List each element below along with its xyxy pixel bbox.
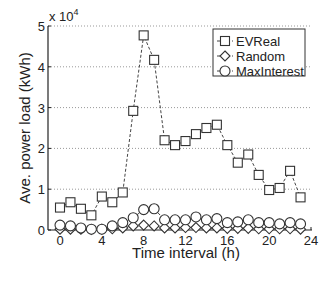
x-tick-label: 4	[98, 233, 105, 248]
square-marker	[129, 106, 138, 115]
circle-marker	[139, 205, 149, 215]
square-marker	[171, 141, 180, 150]
diamond-marker	[139, 220, 149, 230]
circle-marker	[149, 204, 159, 214]
circle-marker	[118, 218, 128, 228]
y-axis-label: Ave. power load (kWh)	[16, 52, 33, 203]
square-marker	[296, 193, 305, 202]
square-marker	[66, 198, 75, 207]
square-marker	[233, 158, 242, 167]
legend: EVRealRandomMaxInterest	[213, 29, 305, 79]
circle-marker	[296, 219, 306, 229]
circle-marker	[128, 213, 138, 223]
square-marker	[275, 183, 284, 192]
power-load-chart: 01234504812162024 Time interval (h) Ave.…	[0, 0, 334, 283]
square-marker	[150, 55, 159, 64]
square-marker	[254, 170, 263, 179]
circle-marker	[264, 218, 274, 228]
circle-marker	[170, 215, 180, 225]
circle-marker	[107, 221, 117, 231]
square-marker	[265, 186, 274, 195]
diamond-marker	[191, 223, 201, 233]
square-marker	[244, 150, 253, 159]
square-marker	[221, 37, 230, 46]
x-axis-label: Time interval (h)	[132, 244, 240, 261]
square-marker	[202, 124, 211, 133]
y-tick-label: 2	[38, 141, 45, 156]
square-marker	[108, 198, 117, 207]
circle-marker	[181, 215, 191, 225]
x-tick-label: 24	[304, 233, 318, 248]
square-marker	[181, 137, 190, 146]
legend-label: EVReal	[236, 34, 280, 49]
circle-marker	[243, 215, 253, 225]
y-multiplier-label: x 104	[49, 7, 79, 24]
square-marker	[139, 31, 148, 40]
y-tick-label: 1	[38, 182, 45, 197]
circle-marker	[222, 218, 232, 228]
square-marker	[212, 120, 221, 129]
square-marker	[97, 192, 106, 201]
x-tick-label: 0	[56, 233, 63, 248]
square-marker	[118, 188, 127, 197]
circle-marker	[55, 220, 65, 230]
circle-marker	[191, 212, 201, 222]
square-marker	[160, 136, 169, 145]
circle-marker	[97, 224, 107, 234]
y-tick-label: 0	[38, 223, 45, 238]
y-tick-label: 5	[38, 19, 45, 34]
circle-marker	[233, 217, 243, 227]
legend-label: MaxInterest	[236, 64, 304, 79]
y-tick-label: 3	[38, 101, 45, 116]
circle-marker	[160, 215, 170, 225]
square-marker	[87, 211, 96, 220]
circle-marker	[220, 66, 230, 76]
circle-marker	[275, 219, 285, 229]
square-marker	[223, 141, 232, 150]
square-marker	[56, 203, 65, 212]
legend-label: Random	[236, 49, 285, 64]
circle-marker	[86, 224, 96, 234]
x-tick-label: 20	[262, 233, 276, 248]
diamond-marker	[212, 223, 222, 233]
circle-marker	[212, 214, 222, 224]
circle-marker	[254, 218, 264, 228]
square-marker	[76, 204, 85, 213]
square-marker	[286, 166, 295, 175]
circle-marker	[285, 218, 295, 228]
y-tick-label: 4	[38, 60, 45, 75]
circle-marker	[65, 221, 75, 231]
circle-marker	[76, 223, 86, 233]
circle-marker	[201, 215, 211, 225]
square-marker	[191, 130, 200, 139]
